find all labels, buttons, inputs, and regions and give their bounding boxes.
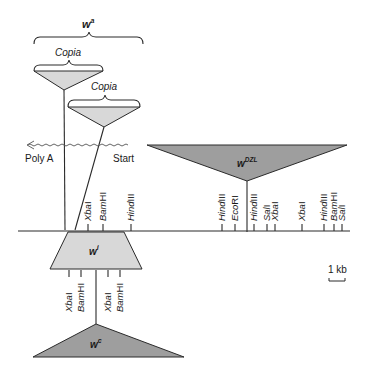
svg-text:SalI: SalI xyxy=(336,205,347,221)
scale-bar xyxy=(329,278,345,281)
site-xbai-2: XbaI xyxy=(269,201,280,231)
copia-label-2: Copia xyxy=(91,81,118,92)
wdzl-insert xyxy=(147,145,347,181)
svg-text:BamHI: BamHI xyxy=(97,192,108,221)
svg-text:XbaI: XbaI xyxy=(296,201,307,222)
svg-text:XbaI: XbaI xyxy=(269,201,280,222)
svg-text:HindIII: HindIII xyxy=(216,194,227,221)
site-sali-2: SalI xyxy=(336,205,347,231)
wi-sites: XbaI BamHI XbaI BamHI xyxy=(63,270,125,313)
transcript-arrow xyxy=(28,144,128,146)
wi-site-bamhi-2: BamHI xyxy=(114,270,125,312)
site-ecori: EcoRI xyxy=(229,195,240,231)
svg-text:BamHI: BamHI xyxy=(75,283,86,312)
site-xbai-3: XbaI xyxy=(296,201,307,231)
svg-text:XbaI: XbaI xyxy=(102,292,113,313)
wa-brace xyxy=(34,32,143,44)
wc-insert xyxy=(33,324,184,357)
copia-insert-2 xyxy=(68,107,140,127)
svg-text:XbaI: XbaI xyxy=(82,201,93,222)
copia-brace-2 xyxy=(68,95,140,107)
copia-brace-1 xyxy=(34,60,103,71)
copia-stem-1 xyxy=(64,90,65,230)
site-xbai-1: XbaI xyxy=(82,201,93,231)
svg-text:HindIII: HindIII xyxy=(125,194,136,221)
copia-label-1: Copia xyxy=(55,47,82,58)
svg-text:XbaI: XbaI xyxy=(63,292,74,313)
start-label: Start xyxy=(113,153,134,164)
poly-a-label: Poly A xyxy=(25,153,54,164)
main-map-sites: XbaI BamHI HindIII HindIII EcoRI HindIII… xyxy=(82,192,347,231)
wa-label: wa xyxy=(82,17,95,30)
site-hindiii-1: HindIII xyxy=(125,194,136,231)
site-hindiii-3: HindIII xyxy=(248,194,259,231)
wi-site-xbai-2: XbaI xyxy=(102,270,113,313)
wi-site-bamhi-1: BamHI xyxy=(75,270,86,312)
svg-text:BamHI: BamHI xyxy=(114,283,125,312)
scale-bar-label: 1 kb xyxy=(328,264,347,275)
site-hindiii-2: HindIII xyxy=(216,194,227,231)
white-locus-diagram: wa Copia Copia Poly A Start wDZL XbaI Ba… xyxy=(0,0,370,377)
svg-text:EcoRI: EcoRI xyxy=(229,195,240,221)
svg-text:HindIII: HindIII xyxy=(248,194,259,221)
site-bamhi-1: BamHI xyxy=(97,192,108,231)
wi-site-xbai-1: XbaI xyxy=(63,270,74,313)
